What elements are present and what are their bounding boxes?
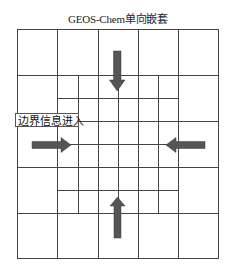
arrow-up-icon <box>110 197 125 238</box>
fine-nested-grid <box>58 76 179 214</box>
arrow-down-icon <box>110 51 126 91</box>
arrow-right-icon <box>32 138 71 153</box>
nested-grid-diagram <box>0 0 234 276</box>
arrow-left-icon <box>166 138 205 153</box>
boundary-info-label: 边界信息进入 <box>15 113 79 127</box>
